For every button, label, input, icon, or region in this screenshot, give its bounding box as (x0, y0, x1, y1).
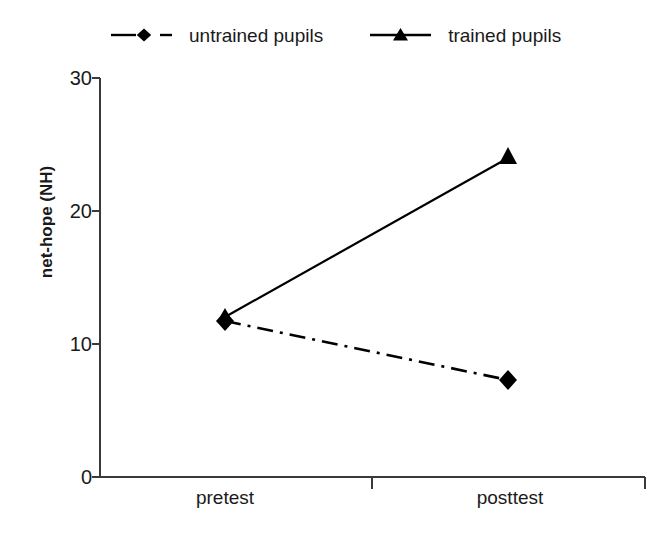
chart-canvas (0, 0, 672, 534)
plot-area: net-hope (NH) 30 20 10 0 pretest posttes… (0, 0, 672, 534)
series-untrained-pupils-line (225, 321, 508, 380)
series-trained-pupils-line (225, 158, 508, 317)
marker-untrained-posttest (499, 370, 517, 390)
chart-figure: untrained pupils trained pupils net-hope… (0, 0, 672, 534)
marker-trained-posttest (499, 147, 517, 164)
